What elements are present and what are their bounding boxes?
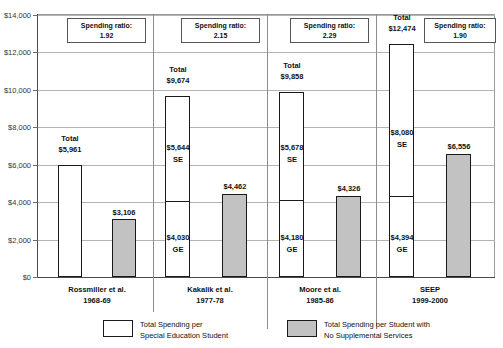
- bar-segment-value-se-seep: $8,080: [376, 128, 428, 138]
- bar-segment-divider-seep: [389, 196, 414, 197]
- category-label-kakalik-line1: Kakalik et al.: [155, 284, 265, 295]
- group-separator-3: [376, 14, 377, 326]
- category-label-seep-line1: SEEP: [375, 284, 485, 295]
- gridline-12000: [37, 52, 495, 53]
- legend-swatch-white: [103, 320, 133, 337]
- spending-ratio-box-seep: Spending ratio: 1.90: [424, 18, 496, 43]
- legend-label-no-supplemental-line2: No Supplemental Services: [324, 331, 412, 342]
- spending-ratio-box-kakalik: Spending ratio: 2.15: [181, 18, 260, 43]
- bar-total-value-rossmiller: $5,961: [45, 145, 95, 155]
- y-tick-label-2000: $2,000: [8, 236, 31, 245]
- bar-value-no-supplemental-kakalik: $4,462: [209, 182, 261, 192]
- bar-total-word-seep: Total: [376, 13, 428, 23]
- spending-ratio-label-kakalik: Spending ratio:: [182, 21, 259, 31]
- category-label-moore-line2: 1985-86: [265, 295, 375, 306]
- category-label-seep-line2: 1999-2000: [375, 295, 485, 306]
- spending-ratio-label-seep: Spending ratio:: [425, 21, 495, 31]
- spending-ratio-value-seep: 1.90: [425, 31, 495, 41]
- y-tick-mark-12000: [33, 52, 38, 53]
- gridline-4000: [37, 202, 495, 203]
- legend-swatch-gray: [287, 320, 317, 337]
- bar-value-no-supplemental-moore: $4,326: [323, 184, 375, 194]
- y-tick-mark-8000: [33, 127, 38, 128]
- y-tick-label-0: $0: [23, 273, 31, 282]
- y-tick-label-12000: $12,000: [4, 48, 31, 57]
- bar-total-word-kakalik: Total: [152, 65, 204, 75]
- spending-ratio-box-rossmiller: Spending ratio: 1.92: [67, 18, 146, 43]
- bar-segment-divider-kakalik: [165, 201, 190, 202]
- bar-total-value-seep: $12,474: [376, 24, 428, 34]
- bar-segment-name-ge-kakalik: GE: [152, 245, 204, 255]
- bar-value-no-supplemental-rossmiller: $3,106: [99, 208, 149, 218]
- legend-label-no-supplemental-line1: Total Spending per Student with: [324, 320, 430, 331]
- bar-no-supplemental-kakalik[interactable]: [222, 194, 247, 277]
- spending-ratio-value-rossmiller: 1.92: [68, 31, 145, 41]
- y-tick-mark-0: [33, 277, 38, 278]
- spending-ratio-value-kakalik: 2.15: [182, 31, 259, 41]
- bar-total-word-rossmiller: Total: [45, 134, 95, 144]
- y-tick-mark-14000: [33, 15, 38, 16]
- bar-value-no-supplemental-seep: $6,556: [433, 142, 485, 152]
- bar-total-special-education-rossmiller[interactable]: [58, 165, 82, 277]
- spending-ratio-label-rossmiller: Spending ratio:: [68, 21, 145, 31]
- bar-total-word-moore: Total: [266, 61, 318, 71]
- bar-segment-name-se-seep: SE: [376, 140, 428, 150]
- bar-segment-name-ge-moore: GE: [266, 245, 318, 255]
- bar-segment-name-ge-seep: GE: [376, 245, 428, 255]
- category-label-moore-line1: Moore et al.: [265, 284, 375, 295]
- y-tick-label-10000: $10,000: [4, 86, 31, 95]
- spending-ratio-label-moore: Spending ratio:: [291, 21, 368, 31]
- spending-ratio-value-moore: 2.29: [291, 31, 368, 41]
- y-tick-mark-6000: [33, 165, 38, 166]
- bar-segment-value-se-kakalik: $5,644: [152, 143, 204, 153]
- bar-no-supplemental-moore[interactable]: [336, 196, 361, 277]
- x-axis-line: [37, 277, 495, 278]
- bar-segment-name-se-kakalik: SE: [152, 155, 204, 165]
- bar-segment-divider-moore: [279, 200, 304, 201]
- bar-segment-value-ge-seep: $4,394: [376, 233, 428, 243]
- category-label-rossmiller-line2: 1968-69: [42, 295, 152, 306]
- bar-total-value-kakalik: $9,674: [152, 76, 204, 86]
- bar-segment-value-ge-kakalik: $4,030: [152, 233, 204, 243]
- y-tick-label-14000: $14,000: [4, 11, 31, 20]
- category-label-kakalik-line2: 1977-78: [155, 295, 265, 306]
- y-tick-label-6000: $6,000: [8, 161, 31, 170]
- y-tick-label-8000: $8,000: [8, 123, 31, 132]
- bar-segment-name-se-moore: SE: [266, 155, 318, 165]
- y-tick-mark-10000: [33, 90, 38, 91]
- bar-no-supplemental-seep[interactable]: [446, 154, 471, 277]
- chart-root: $14,000 $12,000 $10,000 $8,000 $6,000 $4…: [0, 0, 503, 348]
- spending-ratio-box-moore: Spending ratio: 2.29: [290, 18, 369, 43]
- bar-segment-value-se-moore: $5,678: [266, 143, 318, 153]
- y-tick-label-4000: $4,000: [8, 198, 31, 207]
- gridline-6000: [37, 165, 495, 166]
- y-tick-mark-2000: [33, 240, 38, 241]
- gridline-10000: [37, 90, 495, 91]
- y-axis-line: [37, 14, 38, 278]
- legend-label-special-education-line2: Special Education Student: [140, 331, 228, 342]
- legend-label-special-education-line1: Total Spending per: [140, 320, 203, 331]
- bar-no-supplemental-rossmiller[interactable]: [112, 219, 136, 277]
- category-label-rossmiller-line1: Rossmiller et al.: [42, 284, 152, 295]
- bar-total-value-moore: $9,858: [266, 72, 318, 82]
- y-tick-mark-4000: [33, 202, 38, 203]
- bar-segment-value-ge-moore: $4,180: [266, 233, 318, 243]
